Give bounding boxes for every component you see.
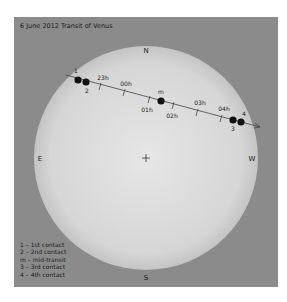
venus-contact-4	[237, 118, 244, 125]
compass-north: N	[143, 47, 148, 55]
compass-west: W	[249, 155, 256, 163]
contact-label-m: m	[158, 88, 164, 95]
venus-contact-1	[74, 76, 81, 83]
contact-label-4: 4	[242, 110, 246, 117]
contact-label-1: 1	[74, 67, 78, 74]
legend-item: 2 – 2nd contact	[20, 248, 66, 255]
tick-label-01h: 01h	[141, 106, 153, 113]
venus-mid-transit	[157, 97, 164, 104]
legend-item: 4 – 4th contact	[20, 271, 66, 278]
contact-label-3: 3	[231, 125, 235, 132]
compass-east: E	[38, 155, 42, 163]
venus-contact-2	[82, 78, 89, 85]
venus-contact-3	[229, 116, 236, 123]
transit-diagram-panel: 6 June 2012 Transit of Venus N S E W	[14, 17, 278, 287]
tick-label-00h: 00h	[120, 80, 132, 87]
tick-label-03h: 03h	[194, 99, 206, 106]
legend-item: 3 – 3rd contact	[20, 263, 66, 270]
contact-label-2: 2	[85, 87, 89, 94]
tick-label-04h: 04h	[218, 105, 230, 112]
legend-item: m – mid-transit	[20, 256, 66, 263]
legend-item: 1 – 1st contact	[20, 241, 66, 248]
tick-label-23h: 23h	[97, 74, 109, 81]
legend: 1 – 1st contact 2 – 2nd contact m – mid-…	[20, 241, 66, 278]
compass-south: S	[144, 274, 149, 282]
tick-label-02h: 02h	[166, 112, 178, 119]
